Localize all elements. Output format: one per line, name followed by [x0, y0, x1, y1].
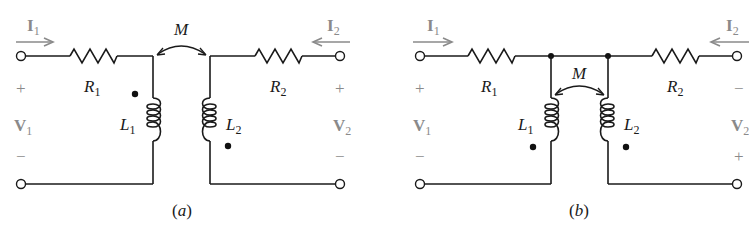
terminal-top-right-a: [336, 52, 345, 61]
terminal-top-left-a: [17, 52, 26, 61]
resistor-label-r2-b: R2: [666, 77, 683, 99]
panel-b: I1 R1 L1 L2 R2: [413, 16, 749, 220]
resistor-r1-a: [70, 49, 117, 63]
inductor-label-l2-b: L2: [623, 115, 639, 137]
current-label-i1-b: I1: [427, 16, 440, 38]
voltage-label-v2-b: V2: [731, 116, 749, 138]
caption-b: (b): [569, 201, 589, 220]
v1-minus-sign-b: −: [415, 147, 425, 166]
current-label-i2-b: I2: [726, 16, 739, 38]
inductor-l1-b: [545, 98, 559, 141]
inductor-label-l2-a: L2: [225, 115, 241, 137]
coupled-inductor-figure: I1 R1 L1 L2 R2: [0, 0, 749, 247]
caption-a: (a): [172, 201, 192, 220]
polarity-dot-l1-a: [132, 91, 138, 97]
current-arrow-i2-b: [711, 38, 749, 46]
terminal-bottom-left-a: [17, 180, 26, 189]
v2-minus-sign-a: −: [335, 147, 345, 166]
polarity-dot-l2-b: [623, 144, 629, 150]
terminal-bottom-right-b: [733, 180, 742, 189]
resistor-label-r1-b: R1: [480, 77, 497, 99]
inductor-l2-b: [601, 98, 615, 141]
resistor-r1-b: [468, 49, 515, 63]
terminal-top-left-b: [416, 52, 425, 61]
inductor-label-l1-b: L1: [517, 115, 533, 137]
v1-plus-sign-b: +: [415, 79, 425, 98]
v1-plus-sign-a: +: [16, 79, 26, 98]
mutual-arc-b: [556, 86, 603, 94]
mutual-arc-a: [158, 46, 205, 54]
current-arrow-i1-b: [413, 38, 452, 46]
polarity-dot-l2-a: [225, 143, 231, 149]
terminal-bottom-right-a: [336, 180, 345, 189]
resistor-r2-a: [255, 49, 302, 63]
terminal-top-right-b: [733, 52, 742, 61]
v2-plus-sign-a: +: [335, 79, 345, 98]
current-label-i1-a: I1: [27, 16, 40, 38]
voltage-label-v2-a: V2: [333, 116, 351, 138]
current-label-i2-a: I2: [327, 16, 340, 38]
current-arrow-i1-a: [16, 38, 53, 46]
voltage-label-v1-a: V1: [14, 116, 32, 138]
resistor-label-r2-a: R2: [269, 77, 286, 99]
polarity-dot-l1-b: [530, 144, 536, 150]
mutual-label-b: M: [571, 64, 587, 83]
voltage-label-v1-b: V1: [413, 116, 431, 138]
inductor-l1-a: [147, 98, 161, 141]
inductor-l2-a: [203, 98, 217, 141]
resistor-label-r1-a: R1: [83, 77, 100, 99]
v1-minus-sign-a: −: [16, 147, 26, 166]
resistor-r2-b: [652, 49, 699, 63]
v2-minus-sign-b: −: [734, 79, 744, 98]
mutual-label-a: M: [173, 20, 189, 39]
panel-a: I1 R1 L1 L2 R2: [14, 16, 351, 220]
inductor-label-l1-a: L1: [119, 115, 135, 137]
v2-plus-sign-b: +: [734, 147, 744, 166]
terminal-bottom-left-b: [416, 180, 425, 189]
current-arrow-i2-a: [313, 38, 350, 46]
